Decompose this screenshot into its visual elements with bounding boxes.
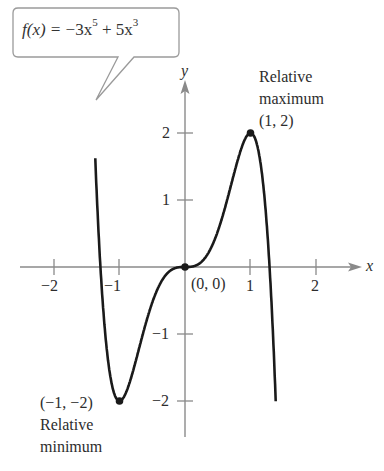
x-axis-label: x [366, 257, 373, 275]
relative-min-point [116, 397, 124, 405]
y-tick-label: −2 [152, 392, 169, 410]
y-axis-label: y [181, 62, 188, 80]
x-tick-label: −1 [104, 277, 121, 295]
origin-label: (0, 0) [191, 275, 226, 293]
x-tick-label: 2 [311, 277, 319, 295]
relative-max-point [247, 129, 255, 137]
relative-max-coords: (1, 2) [259, 110, 324, 132]
relative-min-coords: (−1, −2) [40, 392, 102, 414]
relative-min-label-line1: Relative [40, 414, 102, 436]
x-tick-label: 1 [246, 277, 254, 295]
y-tick-label: 2 [162, 124, 170, 142]
y-tick-label: −1 [152, 325, 169, 343]
function-equation: f(x) = −3x5 + 5x3 [22, 18, 138, 40]
relative-max-label: Relative maximum (1, 2) [259, 66, 324, 132]
relative-min-label: (−1, −2) Relative minimum [40, 392, 102, 458]
relative-max-label-line2: maximum [259, 88, 324, 110]
y-tick-label: 1 [162, 191, 170, 209]
relative-max-label-line1: Relative [259, 66, 324, 88]
origin-point [181, 263, 189, 271]
x-tick-label: −2 [41, 277, 58, 295]
relative-min-label-line2: minimum [40, 436, 102, 458]
